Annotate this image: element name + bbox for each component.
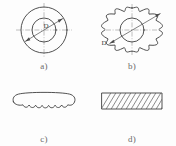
figure-b-drawing: D xyxy=(88,0,176,60)
figure-a-drawing: D xyxy=(0,0,88,60)
figure-panel-d: d) xyxy=(88,73,176,146)
figure-panel-a: D a) xyxy=(0,0,88,73)
dimension-label-b: D xyxy=(102,39,107,47)
caption-d: d) xyxy=(88,134,176,145)
scalloped-segment-c xyxy=(13,92,75,108)
drawing-page: D a) D b) xyxy=(0,0,176,146)
figure-panel-c: c) xyxy=(0,73,88,146)
caption-c: c) xyxy=(0,134,88,145)
dimension-label-a: D xyxy=(44,22,49,30)
caption-a: a) xyxy=(0,61,88,72)
section-hatching-d xyxy=(100,91,172,111)
figure-d-drawing xyxy=(88,73,176,133)
caption-b: b) xyxy=(88,61,176,72)
figure-panel-b: D b) xyxy=(88,0,176,73)
figure-c-drawing xyxy=(0,73,88,133)
